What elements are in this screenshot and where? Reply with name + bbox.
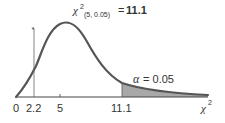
tick-label-5: 5 (57, 102, 63, 114)
x-axis-label-superscript: 2 (208, 99, 212, 106)
title-superscript: 2 (80, 3, 84, 10)
alpha-value: = 0.05 (140, 73, 174, 85)
title-subscript: (5, 0.05) (84, 11, 110, 19)
tick-label-0: 0 (13, 102, 19, 114)
title-equals: = (118, 4, 124, 16)
tick-label-11-1: 11.1 (111, 102, 132, 114)
x-axis-label: χ (200, 102, 207, 114)
alpha-symbol: α (133, 72, 140, 86)
chi-square-chart: * 0 2.2 5 11.1 χ 2 χ 2 (5, 0.05) = 11.1 … (0, 0, 225, 123)
title-value: 11.1 (126, 4, 147, 16)
tick-label-2-2: 2.2 (26, 102, 41, 114)
observed-marker-star: * (32, 25, 35, 34)
density-curve (16, 22, 208, 97)
title-symbol: χ (72, 4, 79, 16)
